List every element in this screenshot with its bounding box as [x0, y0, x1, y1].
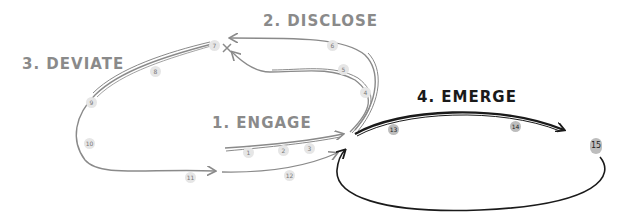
step-badge: 1 [243, 147, 254, 158]
return-arrow-12 [222, 153, 337, 172]
step-badge: 15 [590, 138, 602, 154]
emerge-return-loop [337, 150, 605, 211]
phase-label-deviate: 3. DEVIATE [22, 55, 124, 73]
step-badge: 5 [338, 64, 349, 75]
diagram-canvas [0, 0, 628, 222]
step-badge: 10 [84, 138, 95, 149]
x-marker [223, 44, 231, 52]
step-badge: 3 [304, 143, 315, 154]
step-badge: 7 [209, 40, 220, 51]
step-badge: 11 [185, 172, 196, 183]
phase-label-engage: 1. ENGAGE [212, 114, 312, 132]
step-badge: 12 [284, 170, 295, 181]
step-badge: 9 [86, 97, 97, 108]
step-badge: 8 [150, 66, 161, 77]
step-badge: 4 [360, 87, 371, 98]
step-badge: 13 [388, 124, 399, 135]
step-badge: 14 [510, 121, 521, 132]
emerge-arrow [355, 112, 564, 136]
phase-label-disclose: 2. DISCLOSE [263, 12, 378, 30]
step-badge: 2 [278, 145, 289, 156]
phase-label-emerge: 4. EMERGE [417, 88, 517, 106]
step-badge: 6 [327, 40, 338, 51]
